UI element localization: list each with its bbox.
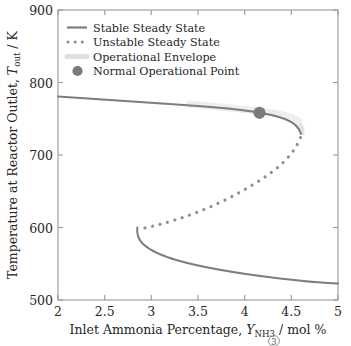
x-tick-2: 2 — [54, 304, 62, 319]
y-tick-800: 800 — [29, 76, 53, 91]
y-tick-700: 700 — [29, 148, 53, 163]
x-tick-3: 3 — [147, 304, 155, 319]
legend-label-operational-envelope: Operational Envelope — [93, 51, 217, 64]
y-axis-label-suffix: / K — [5, 30, 20, 48]
y-axis-label-subscript: out — [12, 52, 22, 67]
x-tick-3p5: 3.5 — [188, 304, 208, 319]
series-stable-lower — [137, 228, 338, 284]
legend-marker-normal-operational-point — [72, 66, 82, 76]
legend-label-normal-operational-point: Normal Operational Point — [93, 65, 240, 78]
y-tick-500: 500 — [29, 293, 53, 308]
bifurcation-diagram: 900 800 700 600 500 2 2.5 3 3.5 4 4.5 5 … — [0, 0, 351, 346]
x-tick-5: 5 — [334, 304, 342, 319]
y-axis-label-prefix: Temperature at Reactor Outlet, — [5, 79, 20, 279]
x-axis-label-suffix: / mol % — [279, 322, 327, 337]
series-unstable-middle — [138, 138, 301, 230]
chart-figure: 900 800 700 600 500 2 2.5 3 3.5 4 4.5 5 … — [0, 0, 351, 346]
x-axis-label-subscript: NH — [255, 329, 271, 339]
y-tick-600: 600 — [29, 221, 53, 236]
y-axis-label: Temperature at Reactor Outlet, Tout / K — [5, 30, 22, 278]
legend: Stable Steady State Unstable Steady Stat… — [67, 22, 240, 79]
x-axis-label-prefix: Inlet Ammonia Percentage, — [70, 322, 243, 337]
legend-label-stable-steady-state: Stable Steady State — [93, 22, 206, 35]
y-tick-labels: 900 800 700 600 500 — [29, 3, 53, 308]
x-tick-labels: 2 2.5 3 3.5 4 4.5 5 — [54, 304, 342, 319]
x-tick-2p5: 2.5 — [95, 304, 115, 319]
x-axis-label: Inlet Ammonia Percentage, YNH3 / mol % — [70, 322, 327, 339]
y-tick-900: 900 — [29, 3, 53, 18]
legend-label-unstable-steady-state: Unstable Steady State — [93, 36, 220, 49]
circled-three-text: 3 — [271, 337, 276, 346]
x-tick-4: 4 — [241, 304, 249, 319]
circled-three-artifact: 3 — [269, 336, 280, 346]
x-tick-4p5: 4.5 — [281, 304, 301, 319]
normal-operational-point-marker — [253, 107, 265, 119]
